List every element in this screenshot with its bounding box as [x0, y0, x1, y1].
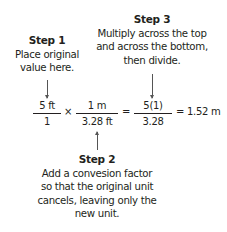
step-1-arrow — [47, 80, 48, 98]
step-2-line: new unit. — [32, 207, 162, 221]
denominator: 3.28 ft — [76, 114, 118, 128]
step-2-line: cancels, leaving only the — [32, 194, 162, 208]
fraction-original-value: 5 ft 1 — [33, 99, 61, 128]
step-3-title: Step 3 — [92, 13, 212, 27]
fraction-multiplied: 5(1) 3.28 — [134, 99, 172, 128]
step-1-line: value here. — [2, 61, 92, 75]
numerator: 1 m — [76, 99, 118, 114]
step-1-line: Place original — [2, 48, 92, 62]
step-2-arrow — [97, 132, 98, 150]
step-1-annotation: Step 1 Place original value here. — [2, 34, 92, 75]
step-3-line: then divide. — [92, 54, 212, 68]
fraction-conversion-factor: 1 m 3.28 ft — [76, 99, 118, 128]
denominator: 1 — [33, 114, 61, 128]
step-2-annotation: Step 2 Add a convesion factor so that th… — [32, 153, 162, 221]
step-3-line: Multiply across the top — [92, 27, 212, 41]
numerator: 5(1) — [134, 99, 172, 114]
step-1-title: Step 1 — [2, 34, 92, 48]
step-2-line: so that the original unit — [32, 180, 162, 194]
step-3-annotation: Step 3 Multiply across the top and acros… — [92, 13, 212, 67]
step-3-line: and across the bottom, — [92, 40, 212, 54]
denominator: 3.28 — [134, 114, 172, 128]
multiply-operator: × — [64, 106, 72, 117]
equals-operator: = — [122, 106, 130, 117]
step-3-arrow — [152, 74, 153, 98]
result-value: = 1.52 m — [176, 106, 220, 117]
step-2-line: Add a convesion factor — [32, 167, 162, 181]
step-2-title: Step 2 — [32, 153, 162, 167]
numerator: 5 ft — [33, 99, 61, 114]
